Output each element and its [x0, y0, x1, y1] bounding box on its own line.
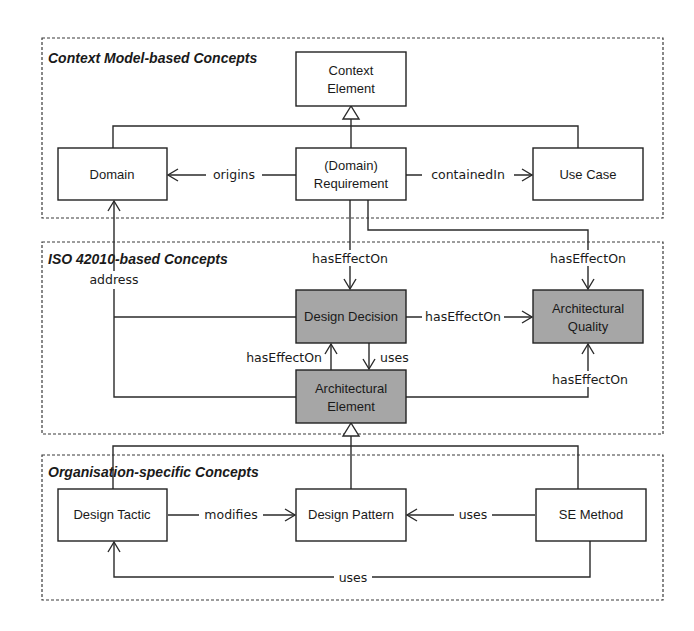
- node-box: [533, 290, 643, 343]
- edge-label-uses: uses: [459, 507, 488, 522]
- edge-label-has-effect-on: hasEffectOn: [312, 251, 388, 266]
- edge-label-origins: origins: [213, 167, 255, 182]
- node-architectural-quality[interactable]: Architectural Quality: [533, 290, 643, 343]
- node-label-line1: (Domain): [324, 158, 377, 173]
- edge-decision-to-quality: hasEffectOn: [406, 308, 532, 324]
- edge-req-to-quality-line: [368, 200, 588, 289]
- generalization-context-element: [113, 106, 578, 148]
- edge-label-has-effect-on: hasEffectOn: [550, 251, 626, 266]
- panel-iso-title: ISO 42010-based Concepts: [48, 251, 228, 267]
- edge-element-to-quality-line: [406, 344, 588, 397]
- node-architectural-element[interactable]: Architectural Element: [296, 370, 406, 423]
- node-label-line2: Element: [327, 81, 375, 96]
- node-label-line1: Architectural: [315, 381, 387, 396]
- generalization-triangle-icon-2: [343, 423, 359, 436]
- node-context-element[interactable]: Context Element: [296, 52, 406, 106]
- node-box: [296, 148, 406, 200]
- node-label: Design Decision: [304, 309, 398, 324]
- node-design-decision[interactable]: Design Decision: [296, 290, 406, 343]
- panel-org-title: Organisation-specific Concepts: [48, 464, 259, 480]
- node-label: Design Pattern: [308, 507, 394, 522]
- node-requirement[interactable]: (Domain) Requirement: [296, 148, 406, 200]
- edge-modifies: modifies: [168, 506, 295, 522]
- node-label: SE Method: [559, 507, 623, 522]
- edge-method-uses-tactic: uses: [108, 541, 590, 585]
- edge-label-modifies: modifies: [204, 507, 257, 522]
- node-label-line2: Requirement: [314, 176, 389, 191]
- node-design-tactic[interactable]: Design Tactic: [58, 489, 167, 541]
- generalization-bus-line: [113, 126, 578, 148]
- node-se-method[interactable]: SE Method: [536, 489, 646, 541]
- edge-address: address: [84, 201, 296, 397]
- node-label: Design Tactic: [73, 507, 151, 522]
- edge-req-to-decision: hasEffectOn: [310, 200, 392, 289]
- edge-contained-in: containedIn: [406, 166, 532, 182]
- edge-decision-uses-element: uses: [363, 343, 409, 369]
- edge-element-to-quality: hasEffectOn: [406, 344, 632, 397]
- edge-req-to-quality: hasEffectOn: [368, 200, 630, 289]
- edge-label-uses: uses: [380, 350, 409, 365]
- generalization-triangle-icon: [343, 106, 359, 119]
- edge-label-contained-in: containedIn: [431, 167, 505, 182]
- node-domain[interactable]: Domain: [58, 148, 167, 200]
- panel-context-title: Context Model-based Concepts: [48, 50, 257, 66]
- edge-label-has-effect-on: hasEffectOn: [552, 372, 628, 387]
- edge-label-has-effect-on: hasEffectOn: [425, 309, 501, 324]
- node-use-case[interactable]: Use Case: [533, 148, 643, 200]
- node-label: Use Case: [559, 167, 616, 182]
- edge-method-uses-pattern: uses: [407, 506, 535, 522]
- node-label: Domain: [90, 167, 135, 182]
- edge-label-has-effect-on: hasEffectOn: [246, 350, 322, 365]
- node-design-pattern[interactable]: Design Pattern: [296, 489, 406, 541]
- node-box: [296, 370, 406, 423]
- node-box: [296, 52, 406, 106]
- edge-label-address: address: [89, 272, 138, 287]
- node-label-line2: Quality: [568, 319, 609, 334]
- concept-diagram: Context Model-based Concepts ISO 42010-b…: [0, 0, 694, 631]
- node-label-line1: Architectural: [552, 301, 624, 316]
- edge-element-to-decision: hasEffectOn: [246, 344, 337, 370]
- edge-origins: origins: [168, 166, 296, 182]
- node-label-line2: Element: [327, 399, 375, 414]
- edge-label-uses: uses: [339, 570, 368, 585]
- node-label-line1: Context: [329, 63, 374, 78]
- edge-address-element-line: [114, 201, 296, 397]
